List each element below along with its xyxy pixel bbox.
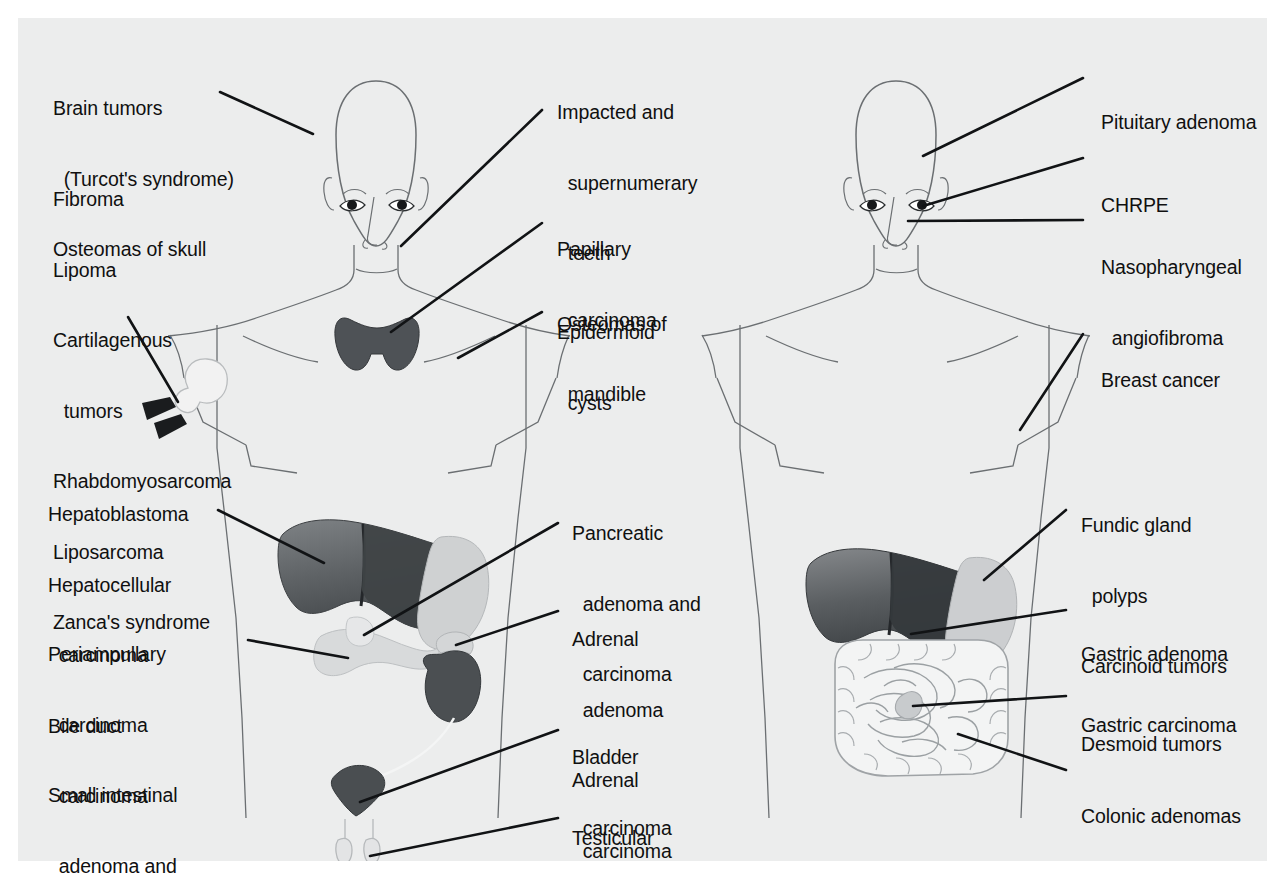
leader-brain-tumors — [220, 92, 313, 134]
head-outline-right — [844, 81, 948, 290]
thyroid-gland — [335, 318, 419, 370]
small-bowel-tumors-label: Periampullary carcinoma Small intestinal… — [48, 596, 197, 879]
breast-cancer-label: Breast cancer — [1101, 322, 1220, 440]
epidermoid-cysts-label: Epidermoid cysts — [557, 274, 655, 462]
eyes-left — [340, 200, 414, 211]
bladder-left — [331, 765, 384, 816]
head-outline-left — [324, 81, 428, 290]
ureter-left — [378, 718, 454, 777]
leader-pituitary — [923, 78, 1083, 156]
leader-nasopharyngeal — [908, 220, 1083, 221]
testicular-carcinoma-label: Testicular embryonal carcinoma — [572, 780, 673, 879]
right-figure — [702, 81, 1090, 818]
figure-panel: Brain tumors (Turcot's syndrome) Osteoma… — [18, 18, 1267, 861]
colonic-tumors-label: Colonic adenomas and carcinomas — [1081, 758, 1241, 879]
leader-breast — [1020, 334, 1083, 430]
leader-gastric-fundic — [984, 510, 1066, 580]
leader-bladder — [360, 730, 558, 802]
leader-papillary — [391, 223, 542, 332]
leader-testicular — [370, 818, 558, 856]
kidney-left — [423, 651, 480, 722]
